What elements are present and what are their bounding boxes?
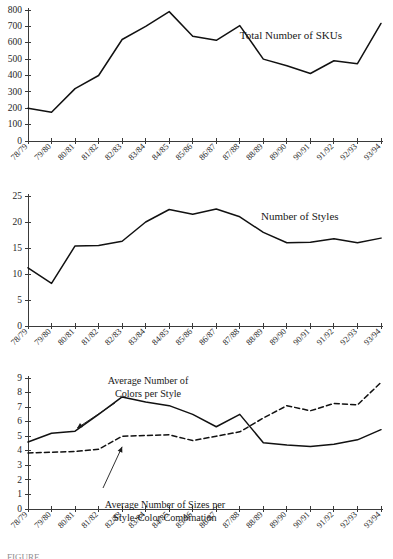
y-axis-tick-label: 4	[17, 445, 22, 455]
x-axis-tick-label: 79/80	[32, 326, 53, 347]
y-axis-tick-label: 5	[17, 431, 22, 441]
chart-svg-colors-and-sizes: 012345678978/7979/8080/8181/8282/8383/84…	[0, 366, 393, 550]
y-axis-tick-label: 300	[8, 87, 23, 97]
figure-three-panel-line-charts: 010020030040050060070080078/7979/8080/81…	[0, 0, 393, 559]
y-axis-tick-label: 2	[17, 475, 22, 485]
x-axis-tick-label: 89/90	[267, 326, 288, 347]
x-axis-tick-label: 78/79	[8, 326, 29, 347]
x-axis-tick-label: 88/89	[244, 326, 265, 347]
y-axis-tick-label: 9	[17, 373, 22, 383]
chart-svg-total-skus: 010020030040050060070080078/7979/8080/81…	[0, 0, 393, 182]
x-axis-tick-label: 88/89	[244, 509, 265, 530]
x-axis-tick-label: 93/94	[361, 141, 382, 162]
x-axis-tick-label: 93/94	[361, 509, 382, 530]
x-axis-tick-label: 85/86	[173, 326, 194, 347]
x-axis-tick-label: 83/84	[126, 326, 147, 347]
y-axis-tick-label: 20	[13, 217, 23, 227]
x-axis-tick-label: 93/94	[361, 326, 382, 347]
y-axis-tick-label: 3	[17, 460, 22, 470]
x-axis-tick-label: 78/79	[8, 509, 29, 530]
y-axis-tick-label: 600	[8, 37, 23, 47]
x-axis-tick-label: 84/85	[150, 326, 171, 347]
series-annotation-label: Style-Color Combination	[113, 512, 216, 523]
y-axis-tick-label: 100	[8, 119, 23, 129]
x-axis-tick-label: 86/87	[197, 141, 218, 162]
series-annotation-label: Average Number of	[108, 375, 189, 386]
series-annotation: Average Number ofColors per Style	[77, 375, 189, 428]
x-axis-tick-label: 84/85	[150, 141, 171, 162]
y-axis-tick-label: 8	[17, 387, 22, 397]
annotation-leader-line	[77, 403, 115, 428]
x-axis-tick-label: 81/82	[79, 141, 100, 162]
x-axis-tick-label: 87/88	[220, 141, 241, 162]
series-annotation-label: Colors per Style	[115, 388, 182, 399]
chart-panel-number-of-styles: 051015202578/7979/8080/8181/8282/8383/84…	[0, 182, 393, 366]
x-axis-tick-label: 80/81	[56, 141, 77, 162]
x-axis-tick-label: 80/81	[56, 326, 77, 347]
x-axis-tick-label: 78/79	[8, 141, 29, 162]
y-axis-tick-label: 400	[8, 70, 23, 80]
series-annotation-label: Average Number of Sizes per	[105, 499, 226, 510]
x-axis-tick-label: 88/89	[244, 141, 265, 162]
series-annotation-label: Number of Styles	[261, 210, 339, 222]
series-annotation-label: Total Number of SKUs	[240, 29, 342, 41]
x-axis-tick-label: 80/81	[56, 509, 77, 530]
x-axis-tick-label: 92/93	[338, 509, 359, 530]
y-axis-tick-label: 6	[17, 416, 22, 426]
x-axis-tick-label: 83/84	[126, 141, 147, 162]
chart-panel-colors-and-sizes: 012345678978/7979/8080/8181/8282/8383/84…	[0, 366, 393, 550]
x-axis-tick-label: 85/86	[173, 141, 194, 162]
x-axis-tick-label: 79/80	[32, 509, 53, 530]
figure-caption: FIGURE	[7, 552, 387, 559]
y-axis-tick-label: 700	[8, 21, 23, 31]
chart-panel-total-skus: 010020030040050060070080078/7979/8080/81…	[0, 0, 393, 182]
x-axis-tick-label: 81/82	[79, 326, 100, 347]
x-axis-tick-label: 87/88	[220, 326, 241, 347]
y-axis-tick-label: 7	[17, 402, 22, 412]
y-axis-tick-label: 25	[13, 191, 23, 201]
x-axis-tick-label: 90/91	[291, 141, 312, 162]
y-axis-tick-label: 200	[8, 103, 23, 113]
y-axis-tick-label: 10	[13, 269, 23, 279]
annotation-leader-line	[103, 447, 122, 488]
x-axis-tick-label: 92/93	[338, 326, 359, 347]
x-axis-tick-label: 81/82	[79, 509, 100, 530]
x-axis-tick-label: 89/90	[267, 509, 288, 530]
y-axis-tick-label: 5	[17, 295, 22, 305]
x-axis-tick-label: 79/80	[32, 141, 53, 162]
y-axis-tick-label: 800	[8, 5, 23, 15]
x-axis-tick-label: 92/93	[338, 141, 359, 162]
x-axis-tick-label: 82/83	[103, 326, 124, 347]
x-axis-tick-label: 86/87	[197, 326, 218, 347]
y-axis-tick-label: 500	[8, 54, 23, 64]
x-axis-tick-label: 87/88	[220, 509, 241, 530]
series-line-1	[28, 12, 381, 113]
x-axis-tick-label: 91/92	[314, 141, 335, 162]
x-axis-tick-label: 90/91	[291, 509, 312, 530]
x-axis-tick-label: 82/83	[103, 141, 124, 162]
chart-svg-number-of-styles: 051015202578/7979/8080/8181/8282/8383/84…	[0, 182, 393, 366]
x-axis-tick-label: 90/91	[291, 326, 312, 347]
x-axis-tick-label: 91/92	[314, 326, 335, 347]
y-axis-tick-label: 1	[17, 489, 22, 499]
series-line-2	[28, 382, 381, 453]
series-annotation: Average Number of Sizes perStyle-Color C…	[103, 447, 226, 523]
x-axis-tick-label: 91/92	[314, 509, 335, 530]
y-axis-tick-label: 15	[13, 243, 23, 253]
x-axis-tick-label: 89/90	[267, 141, 288, 162]
